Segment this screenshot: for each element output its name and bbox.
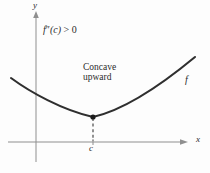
x-axis-label: x: [196, 135, 200, 145]
minimum-point-marker: [90, 114, 95, 119]
second-derivative-condition-label: f″(c) > 0: [43, 25, 77, 36]
x-axis-arrowhead: [180, 139, 188, 145]
condition-relation: > 0: [61, 24, 77, 35]
annotation-line-2: upward: [83, 72, 116, 82]
annotation-line-1: Concave: [83, 62, 116, 72]
concave-upward-figure: y x c f f″(c) > 0 Concave upward: [0, 0, 210, 173]
x-axis-tick-label-c: c: [89, 144, 93, 154]
figure-canvas: [0, 0, 210, 173]
concave-upward-annotation: Concave upward: [83, 62, 116, 83]
y-axis-label: y: [33, 1, 37, 11]
condition-argument: (c): [50, 24, 61, 35]
y-axis-arrowhead: [33, 11, 39, 18]
curve-label-f: f: [185, 75, 188, 86]
